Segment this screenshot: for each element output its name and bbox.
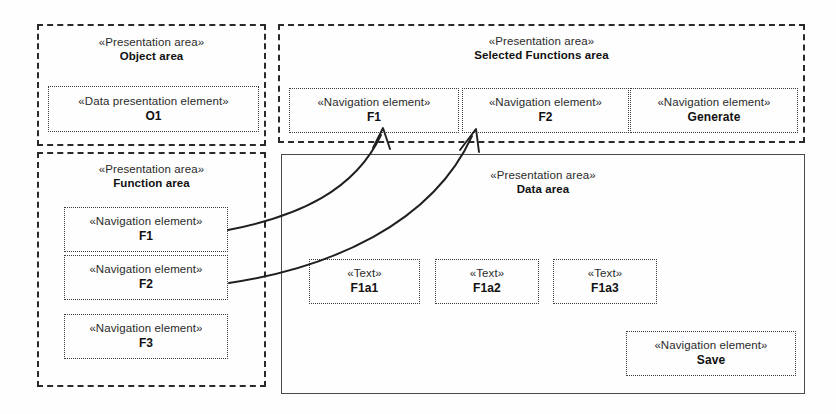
diagram-canvas: «Presentation area» Object area «Data pr… [0, 0, 836, 414]
data-area-element-f1a3[interactable]: «Text» F1a3 [553, 259, 657, 304]
object-area: «Presentation area» Object area «Data pr… [37, 24, 266, 146]
object-area-name: Object area [39, 50, 264, 64]
function-area: «Presentation area» Function area «Navig… [37, 152, 266, 387]
data-area-element-save[interactable]: «Navigation element» Save [626, 331, 796, 376]
data-area-stereotype: «Presentation area» [282, 169, 804, 183]
object-area-stereotype: «Presentation area» [39, 36, 264, 50]
data-area-element-f1a1-stereotype: «Text» [347, 267, 381, 281]
function-area-stereotype: «Presentation area» [39, 163, 264, 177]
selected-functions-element-f1-name: F1 [367, 110, 381, 124]
selected-functions-element-generate-stereotype: «Navigation element» [657, 96, 770, 110]
selected-functions-element-f2-name: F2 [538, 110, 552, 124]
data-area-element-f1a2[interactable]: «Text» F1a2 [435, 259, 539, 304]
function-area-element-f1[interactable]: «Navigation element» F1 [64, 207, 228, 252]
data-area: «Presentation area» Data area «Text» F1a… [281, 154, 805, 394]
selected-functions-element-generate-name: Generate [688, 110, 741, 124]
selected-functions-element-f1[interactable]: «Navigation element» F1 [289, 88, 459, 133]
selected-functions-element-f2[interactable]: «Navigation element» F2 [462, 88, 629, 133]
function-area-element-f1-name: F1 [139, 229, 153, 243]
selected-functions-element-f1-stereotype: «Navigation element» [317, 96, 430, 110]
selected-functions-area: «Presentation area» Selected Functions a… [278, 24, 805, 143]
selected-functions-area-name: Selected Functions area [280, 49, 803, 63]
data-area-element-f1a1[interactable]: «Text» F1a1 [309, 259, 420, 304]
function-area-element-f3-name: F3 [139, 336, 153, 350]
data-area-name: Data area [282, 183, 804, 197]
function-area-element-f2[interactable]: «Navigation element» F2 [64, 255, 228, 300]
selected-functions-area-stereotype: «Presentation area» [280, 35, 803, 49]
object-area-element-o1[interactable]: «Data presentation element» O1 [48, 86, 259, 132]
function-area-element-f3[interactable]: «Navigation element» F3 [64, 314, 228, 359]
function-area-element-f3-stereotype: «Navigation element» [89, 322, 202, 336]
function-area-element-f2-name: F2 [139, 277, 153, 291]
selected-functions-element-generate[interactable]: «Navigation element» Generate [630, 88, 798, 133]
selected-functions-element-f2-stereotype: «Navigation element» [489, 96, 602, 110]
object-area-element-o1-stereotype: «Data presentation element» [78, 95, 228, 109]
function-area-name: Function area [39, 177, 264, 191]
data-area-element-f1a3-stereotype: «Text» [588, 267, 622, 281]
object-area-heading: «Presentation area» Object area [39, 36, 264, 63]
data-area-element-f1a3-name: F1a3 [591, 281, 619, 295]
data-area-element-save-stereotype: «Navigation element» [654, 339, 767, 353]
data-area-heading: «Presentation area» Data area [282, 169, 804, 196]
function-area-element-f2-stereotype: «Navigation element» [89, 263, 202, 277]
selected-functions-area-heading: «Presentation area» Selected Functions a… [280, 35, 803, 62]
function-area-element-f1-stereotype: «Navigation element» [89, 215, 202, 229]
data-area-element-f1a2-name: F1a2 [473, 281, 501, 295]
data-area-element-f1a1-name: F1a1 [351, 281, 379, 295]
data-area-element-save-name: Save [697, 353, 725, 367]
function-area-heading: «Presentation area» Function area [39, 163, 264, 190]
data-area-element-f1a2-stereotype: «Text» [470, 267, 504, 281]
object-area-element-o1-name: O1 [145, 109, 161, 123]
